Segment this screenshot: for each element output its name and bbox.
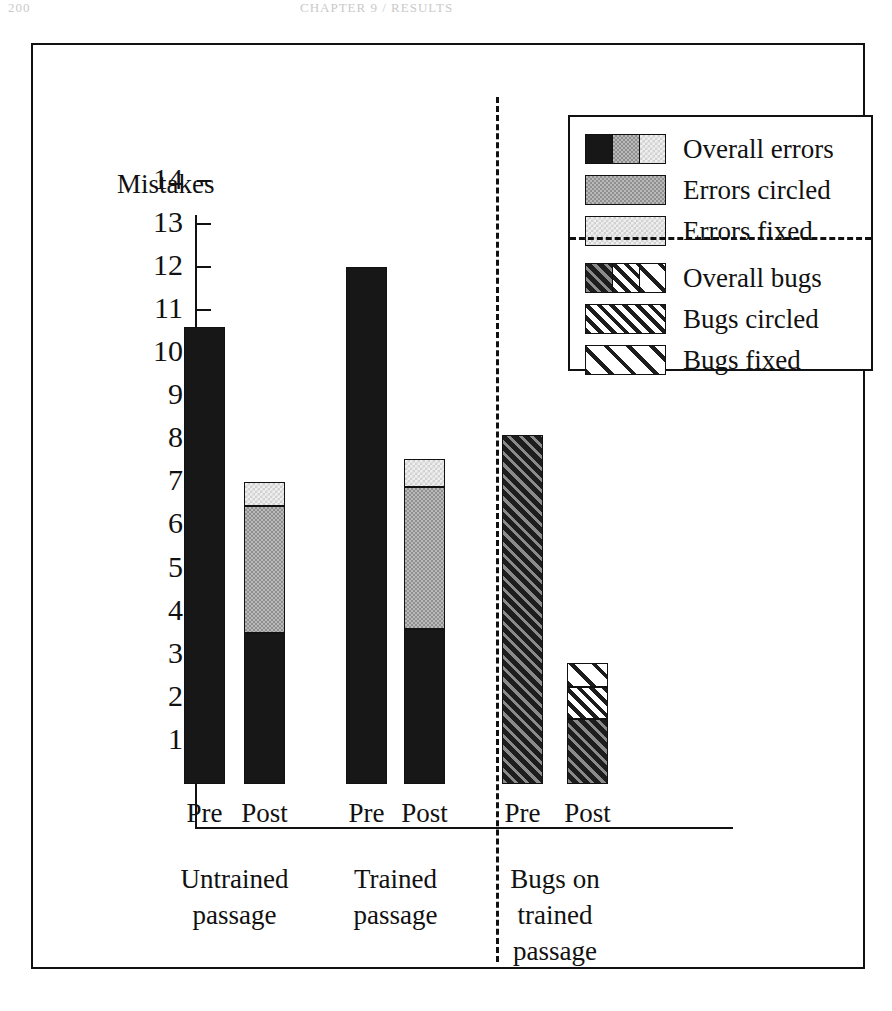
section-divider (496, 97, 499, 962)
legend-swatch-part (639, 264, 665, 292)
bar-segment (244, 506, 285, 633)
y-tick-label: 7 (129, 465, 183, 495)
y-tick-label: 5 (129, 552, 183, 582)
chart-bar (346, 267, 387, 784)
legend-swatch-part (586, 176, 665, 204)
bar-segment (567, 687, 608, 719)
bar-segment (567, 663, 608, 687)
figure-frame: Mistakes 1413121110987654321 PrePostPreP… (31, 43, 865, 969)
legend-swatch-part (612, 264, 638, 292)
legend-swatch-icon (585, 345, 666, 375)
chart-bar (567, 663, 608, 784)
legend-swatch-part (586, 346, 665, 374)
legend-label: Overall bugs (683, 265, 822, 292)
legend-swatch-part (586, 217, 665, 245)
bar-segment (404, 487, 445, 629)
legend-swatch-part (586, 305, 665, 333)
y-tick-label: 10 (129, 336, 183, 366)
y-tick-label: 11 (129, 293, 183, 323)
legend-label: Bugs fixed (683, 347, 801, 374)
legend-divider (570, 237, 871, 240)
bar-segment (184, 327, 225, 784)
group-label-line: trained (460, 897, 650, 933)
bar-segment (502, 435, 543, 784)
legend-swatch-part (612, 135, 638, 163)
legend-swatch-icon (585, 134, 666, 164)
y-tick-mark (197, 180, 211, 182)
legend-label: Errors circled (683, 177, 831, 204)
bar-segment (404, 629, 445, 784)
legend-swatch-part (586, 264, 612, 292)
legend-label: Bugs circled (683, 306, 819, 333)
legend-swatch-icon (585, 263, 666, 293)
y-tick-label: 1 (129, 724, 183, 754)
page-artifact-center: CHAPTER 9 / RESULTS (300, 0, 453, 16)
y-tick-label: 13 (129, 207, 183, 237)
y-tick-mark (197, 309, 211, 311)
y-tick-label: 6 (129, 508, 183, 538)
y-tick-label: 2 (129, 681, 183, 711)
legend-item[interactable]: Overall bugs (585, 260, 861, 296)
legend-label: Overall errors (683, 136, 834, 163)
y-tick-label: 8 (129, 422, 183, 452)
chart-bar (244, 482, 285, 784)
x-axis-category-label: Post (528, 798, 648, 829)
group-label-line: Bugs on (460, 861, 650, 897)
chart-bar (502, 435, 543, 784)
legend-swatch-icon (585, 304, 666, 334)
legend-item[interactable]: Overall errors (585, 131, 861, 167)
legend-label: Errors fixed (683, 218, 813, 245)
legend-swatch-part (586, 135, 612, 163)
chart-bar (404, 459, 445, 784)
legend-item[interactable]: Bugs circled (585, 301, 861, 337)
page-artifact-left: 200 (8, 0, 31, 16)
bar-segment (567, 719, 608, 784)
legend-swatch-part (639, 135, 665, 163)
legend-item[interactable]: Bugs fixed (585, 342, 861, 378)
legend-item[interactable]: Errors fixed (585, 213, 861, 249)
y-tick-label: 3 (129, 638, 183, 668)
legend-item[interactable]: Errors circled (585, 172, 861, 208)
bar-segment (244, 633, 285, 784)
legend-swatch-icon (585, 216, 666, 246)
group-label-line: passage (460, 933, 650, 969)
chart-bar (184, 327, 225, 784)
y-tick-label: 12 (129, 250, 183, 280)
y-tick-label: 4 (129, 595, 183, 625)
chart-legend: Overall errorsErrors circledErrors fixed… (568, 115, 873, 371)
y-tick-label: 14 (129, 164, 183, 194)
bar-segment (244, 482, 285, 506)
y-tick-mark (197, 223, 211, 225)
x-axis-group-label: Bugs ontrainedpassage (460, 861, 650, 969)
y-tick-mark (197, 266, 211, 268)
bar-segment (404, 459, 445, 487)
bar-segment (346, 267, 387, 784)
y-tick-label: 9 (129, 379, 183, 409)
legend-swatch-icon (585, 175, 666, 205)
